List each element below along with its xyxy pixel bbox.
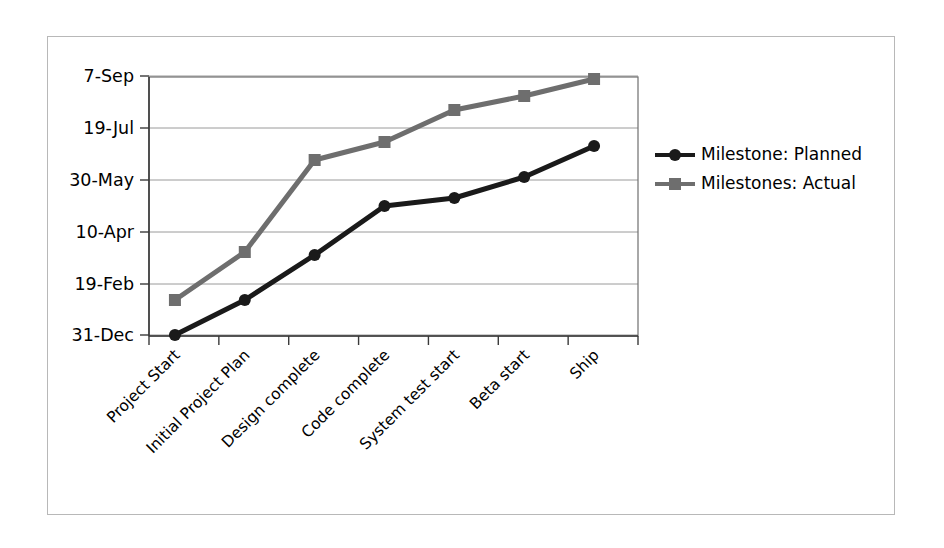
y-axis-tick-label: 10-Apr (76, 222, 135, 242)
chart-frame: 31-Dec19-Feb10-Apr30-May19-Jul7-Sep Proj… (47, 36, 895, 515)
y-axis-tick-label: 7-Sep (84, 66, 134, 86)
data-point-marker (239, 294, 251, 306)
y-axis-tick-label: 19-Feb (74, 274, 134, 294)
chart-legend: Milestone: PlannedMilestones: Actual (655, 144, 862, 193)
data-point-marker (169, 329, 181, 341)
y-axis-tick-label: 30-May (69, 170, 134, 190)
data-point-marker (379, 136, 391, 148)
data-point-marker (588, 73, 600, 85)
y-axis-tick-marks (140, 76, 149, 335)
series-line-actual (175, 79, 594, 300)
data-point-marker (588, 140, 600, 152)
y-axis-tick-label: 19-Jul (83, 118, 134, 138)
x-axis-tick-label: Beta start (466, 346, 533, 413)
data-point-marker (448, 192, 460, 204)
legend-label: Milestones: Actual (701, 173, 856, 193)
x-axis-tick-marks (149, 336, 638, 345)
y-axis-tick-labels: 31-Dec19-Feb10-Apr30-May19-Jul7-Sep (69, 66, 135, 345)
data-point-marker (309, 249, 321, 261)
y-axis-tick-label: 31-Dec (72, 325, 134, 345)
x-axis-tick-labels: Project StartInitial Project PlanDesign … (103, 346, 603, 457)
data-point-marker (448, 104, 460, 116)
x-axis-tick-label: Ship (566, 346, 603, 383)
series-line-planned (175, 146, 594, 335)
legend-label: Milestone: Planned (701, 144, 862, 164)
data-point-marker (379, 200, 391, 212)
data-point-marker (518, 90, 530, 102)
data-point-marker (518, 171, 530, 183)
data-series (169, 73, 600, 341)
legend-marker (669, 149, 681, 161)
milestone-line-chart: 31-Dec19-Feb10-Apr30-May19-Jul7-Sep Proj… (48, 37, 894, 514)
data-point-marker (309, 154, 321, 166)
data-point-marker (169, 294, 181, 306)
legend-marker (669, 178, 681, 190)
data-point-marker (239, 246, 251, 258)
